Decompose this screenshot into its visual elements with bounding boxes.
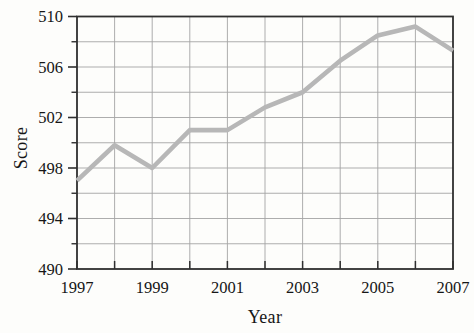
x-tick-label: 2001 [211, 278, 244, 297]
x-tick-label: 1997 [61, 278, 94, 297]
x-tick-label: 2003 [286, 278, 319, 297]
y-tick-label: 510 [38, 7, 63, 26]
y-tick-label: 490 [38, 260, 63, 279]
x-tick-label: 2007 [437, 278, 470, 297]
x-tick-label: 2005 [361, 278, 394, 297]
y-tick-label: 498 [38, 159, 63, 178]
y-tick-label: 494 [38, 209, 63, 228]
y-axis-title: Score [10, 107, 32, 189]
x-axis-title: Year [205, 305, 325, 329]
score-by-year-figure: 4904944985025065101997199920012003200520… [0, 0, 474, 333]
y-tick-label: 502 [38, 108, 63, 127]
x-tick-label: 1999 [136, 278, 169, 297]
y-tick-label: 506 [38, 58, 63, 77]
line-chart-canvas: 4904944985025065101997199920012003200520… [0, 0, 474, 333]
